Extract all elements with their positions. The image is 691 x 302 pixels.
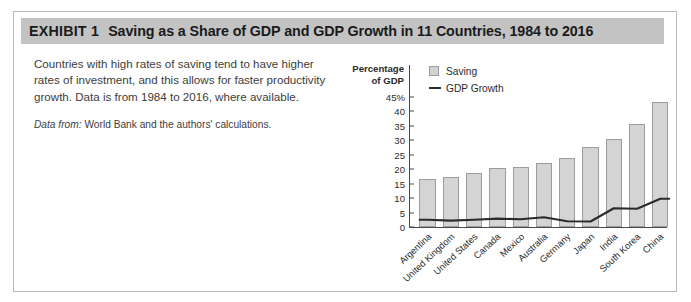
gdp-growth-line-series bbox=[410, 97, 672, 227]
y-axis-tick-label: 0 bbox=[364, 222, 410, 233]
x-axis-line bbox=[409, 227, 667, 228]
y-axis-title-line1: Percentage bbox=[348, 63, 404, 75]
exhibit-title: Saving as a Share of GDP and GDP Growth … bbox=[108, 23, 593, 39]
x-axis-label-japan: Japan bbox=[572, 233, 597, 258]
exhibit-header-band: EXHIBIT 1Saving as a Share of GDP and GD… bbox=[21, 18, 664, 44]
plot-area: 051015202530354045% bbox=[410, 97, 672, 227]
x-axis-label-text: China bbox=[641, 232, 666, 256]
description-paragraph: Countries with high rates of saving tend… bbox=[34, 56, 334, 105]
y-axis-tick-label: 35 bbox=[364, 120, 410, 131]
y-axis-title: Percentage of GDP bbox=[348, 63, 404, 88]
y-axis-tick-label: 40 bbox=[364, 106, 410, 117]
y-axis-tick-label: 25 bbox=[364, 149, 410, 160]
legend-label-saving: Saving bbox=[446, 66, 477, 77]
description-block: Countries with high rates of saving tend… bbox=[34, 56, 344, 132]
gdp-growth-polyline bbox=[420, 199, 669, 222]
y-axis-tick-label: 10 bbox=[364, 193, 410, 204]
y-axis-tick-label: 45% bbox=[364, 92, 410, 103]
source-note: Data from: World Bank and the authors' c… bbox=[34, 118, 344, 132]
chart-figure: Percentage of GDP Saving GDP Growth 0510… bbox=[348, 57, 678, 302]
exhibit-number-label: EXHIBIT 1 bbox=[29, 23, 99, 39]
x-axis-label-china: China bbox=[643, 233, 668, 257]
y-axis-tick-label: 30 bbox=[364, 135, 410, 146]
saving-swatch-icon bbox=[429, 66, 439, 76]
y-axis-tick-label: 5 bbox=[364, 207, 410, 218]
source-note-label: Data from: bbox=[34, 119, 82, 130]
plot-wrapper: 051015202530354045% bbox=[404, 97, 672, 232]
exhibit-header-text: EXHIBIT 1Saving as a Share of GDP and GD… bbox=[21, 23, 593, 39]
x-axis-label-text: Japan bbox=[571, 232, 596, 257]
legend-item-saving: Saving bbox=[429, 64, 504, 78]
legend-label-gdp-growth: GDP Growth bbox=[446, 83, 504, 94]
chart-legend: Saving GDP Growth bbox=[429, 64, 504, 98]
exhibit-container: EXHIBIT 1Saving as a Share of GDP and GD… bbox=[13, 11, 677, 292]
legend-item-gdp-growth: GDP Growth bbox=[429, 81, 504, 95]
y-axis-tick-label: 15 bbox=[364, 178, 410, 189]
x-axis-labels: ArgentinaUnited KingdomUnited StatesCana… bbox=[404, 233, 672, 302]
source-note-text: World Bank and the authors' calculations… bbox=[84, 119, 271, 130]
gdp-growth-line-icon bbox=[429, 87, 441, 89]
y-axis-title-line2: of GDP bbox=[348, 75, 404, 87]
y-axis-tick-label: 20 bbox=[364, 164, 410, 175]
